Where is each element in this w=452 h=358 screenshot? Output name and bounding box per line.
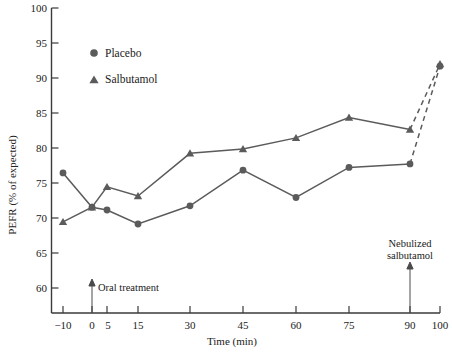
y-tick-label: 70	[36, 212, 48, 224]
data-point	[104, 207, 111, 214]
salbutamol-solid-line	[63, 118, 410, 222]
legend-label-salbutamol: Salbutamol	[105, 73, 157, 85]
y-tick-label: 65	[36, 247, 48, 259]
x-tick-label: 30	[185, 319, 197, 331]
pefr-time-line-chart: 100 95 90 85 80 75 70 65 60 −10 0	[0, 0, 452, 358]
legend-marker-circle-icon	[90, 49, 98, 57]
placebo-markers	[60, 63, 444, 228]
data-point	[293, 194, 300, 201]
y-tick-label: 75	[36, 177, 48, 189]
salbutamol-dashed-line	[410, 64, 440, 129]
annotation-oral-treatment: Oral treatment	[89, 279, 159, 312]
data-point	[187, 202, 194, 209]
x-tick-label: −10	[54, 319, 72, 331]
annotation-nebulized-line1: Nebulized	[388, 238, 432, 249]
data-point	[240, 167, 247, 174]
annotation-nebulized-salbutamol: Nebulized salbutamol	[387, 238, 433, 312]
x-tick-label: 60	[291, 319, 303, 331]
data-point	[59, 218, 67, 225]
data-point	[407, 161, 414, 168]
data-point	[60, 170, 67, 177]
y-tick-label: 90	[36, 72, 48, 84]
y-tick-label: 95	[36, 37, 48, 49]
annotation-nebulized-line2: salbutamol	[387, 250, 433, 261]
series-placebo	[60, 63, 444, 228]
x-tick-label: 0	[89, 319, 95, 331]
x-tick-label: 15	[133, 319, 145, 331]
legend-marker-triangle-icon	[89, 76, 98, 84]
y-axis-ticks	[52, 8, 59, 288]
x-tick-label: 90	[405, 319, 417, 331]
legend: Placebo Salbutamol	[89, 47, 157, 85]
y-tick-label: 100	[31, 2, 48, 14]
x-axis-tick-labels: −10 0 5 15 30 45 60 75 90 100	[54, 319, 448, 331]
x-axis-ticks	[63, 306, 440, 313]
y-tick-label: 60	[36, 282, 48, 294]
y-axis-tick-labels: 100 95 90 85 80 75 70 65 60	[31, 2, 48, 294]
legend-label-placebo: Placebo	[105, 47, 142, 59]
x-axis-title: Time (min)	[207, 335, 257, 348]
data-point	[436, 60, 444, 67]
x-tick-label: 75	[344, 319, 356, 331]
annotation-oral-treatment-label: Oral treatment	[98, 282, 159, 293]
x-tick-label: 100	[432, 319, 449, 331]
placebo-dashed-line	[410, 66, 440, 164]
x-tick-label: 5	[105, 319, 111, 331]
y-axis-title: PEFR (% of expected)	[6, 135, 19, 235]
y-tick-label: 85	[36, 107, 48, 119]
data-point	[346, 164, 353, 171]
data-point	[135, 221, 142, 228]
y-tick-label: 80	[36, 142, 48, 154]
data-point	[103, 183, 111, 190]
data-point	[345, 114, 353, 121]
placebo-solid-line	[63, 164, 410, 224]
x-tick-label: 45	[238, 319, 250, 331]
chart-svg: 100 95 90 85 80 75 70 65 60 −10 0	[0, 0, 452, 358]
